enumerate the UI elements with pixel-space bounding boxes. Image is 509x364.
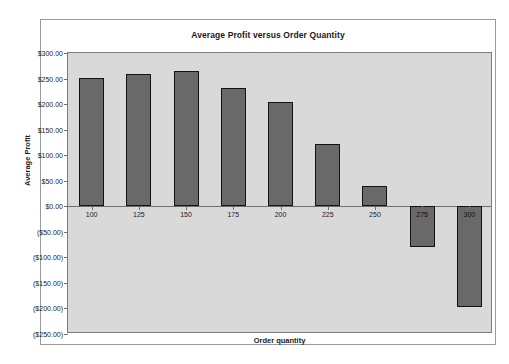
plot-area: $300.00$250.00$200.00$150.00$100.00$50.0… bbox=[67, 52, 492, 333]
x-axis-tick bbox=[92, 206, 93, 210]
bar bbox=[268, 102, 293, 207]
y-axis-tick bbox=[64, 79, 68, 80]
y-axis-tick-label: $300.00 bbox=[38, 50, 63, 57]
y-axis-tick-label: $50.00 bbox=[42, 177, 63, 184]
y-axis-tick-label: ($100.00) bbox=[33, 254, 63, 261]
y-axis-tick bbox=[64, 53, 68, 54]
x-axis-title: Order quantity bbox=[67, 336, 492, 345]
y-axis-tick-label: $100.00 bbox=[38, 152, 63, 159]
x-axis-tick-label: 175 bbox=[227, 211, 239, 218]
x-axis-tick-label: 300 bbox=[464, 211, 476, 218]
y-axis-tick-label: $250.00 bbox=[38, 75, 63, 82]
x-axis-tick-label: 150 bbox=[180, 211, 192, 218]
x-axis-tick bbox=[233, 206, 234, 210]
x-axis-tick bbox=[469, 206, 470, 210]
plot-inner: $300.00$250.00$200.00$150.00$100.00$50.0… bbox=[68, 53, 491, 332]
y-axis-tick-label: ($50.00) bbox=[37, 228, 63, 235]
y-axis-tick bbox=[64, 232, 68, 233]
y-axis-tick-label: $0.00 bbox=[45, 203, 63, 210]
bar bbox=[126, 74, 151, 206]
x-axis-tick bbox=[375, 206, 376, 210]
x-axis-tick-label: 250 bbox=[369, 211, 381, 218]
x-axis-tick bbox=[422, 206, 423, 210]
y-axis-tick bbox=[64, 308, 68, 309]
y-axis-tick-label: $150.00 bbox=[38, 126, 63, 133]
chart-title: Average Profit versus Order Quantity bbox=[41, 30, 495, 40]
y-axis-tick bbox=[64, 104, 68, 105]
bar bbox=[79, 78, 104, 207]
y-axis-tick bbox=[64, 155, 68, 156]
x-axis-tick bbox=[281, 206, 282, 210]
y-axis-tick bbox=[64, 334, 68, 335]
x-axis-tick-label: 225 bbox=[322, 211, 334, 218]
y-axis-tick bbox=[64, 181, 68, 182]
y-axis-tick-label: $200.00 bbox=[38, 101, 63, 108]
x-axis-tick bbox=[328, 206, 329, 210]
y-axis-tick-label: ($250.00) bbox=[33, 331, 63, 338]
bar bbox=[315, 144, 340, 206]
bar bbox=[174, 71, 199, 206]
x-axis-tick-label: 100 bbox=[86, 211, 98, 218]
bar bbox=[221, 88, 246, 207]
x-axis-tick-label: 125 bbox=[133, 211, 145, 218]
top-edge-artifact bbox=[0, 0, 509, 6]
y-axis-tick bbox=[64, 130, 68, 131]
y-axis-tick bbox=[64, 283, 68, 284]
y-axis-tick-label: ($200.00) bbox=[33, 305, 63, 312]
x-axis-tick-label: 275 bbox=[416, 211, 428, 218]
y-axis-tick-label: ($150.00) bbox=[33, 279, 63, 286]
bar bbox=[362, 186, 387, 206]
chart-frame: Average Profit versus Order Quantity Ave… bbox=[40, 19, 496, 345]
y-axis-tick bbox=[64, 257, 68, 258]
x-axis-tick bbox=[186, 206, 187, 210]
bar bbox=[457, 206, 482, 307]
x-axis-tick-label: 200 bbox=[275, 211, 287, 218]
x-axis-tick bbox=[139, 206, 140, 210]
